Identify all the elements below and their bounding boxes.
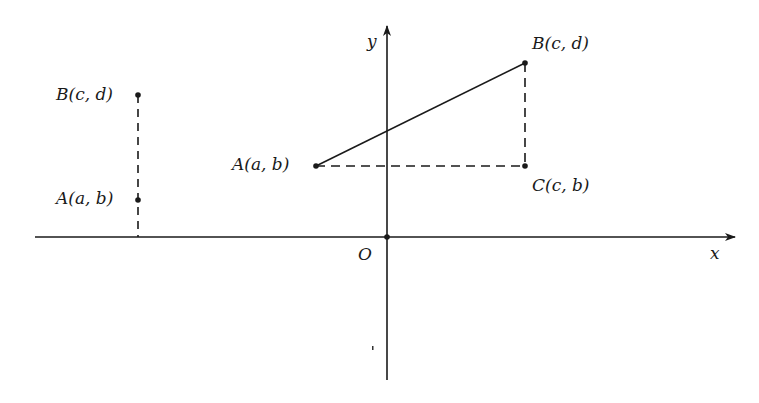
segment-AB: [316, 63, 525, 166]
right-point-A: [313, 163, 319, 169]
origin-point: [384, 234, 390, 240]
stray-mark: [372, 346, 374, 350]
diagram-canvas: [0, 0, 759, 403]
left-point-B: [135, 92, 141, 98]
left-point-A: [135, 197, 141, 203]
right-point-B: [522, 60, 528, 66]
left-point-A-label: A(a, b): [56, 190, 113, 207]
coordinate-diagram: y x O B(c, d) A(a, b) A(a, b) B(c, d) C(…: [0, 0, 759, 403]
right-point-B-label: B(c, d): [532, 35, 589, 52]
origin-label: O: [358, 246, 372, 263]
left-point-B-label: B(c, d): [56, 86, 113, 103]
y-axis-label: y: [367, 33, 377, 50]
right-point-C-label: C(c, b): [532, 177, 589, 194]
right-point-A-label: A(a, b): [232, 156, 289, 173]
x-axis-label: x: [710, 245, 720, 262]
right-point-C: [522, 163, 528, 169]
